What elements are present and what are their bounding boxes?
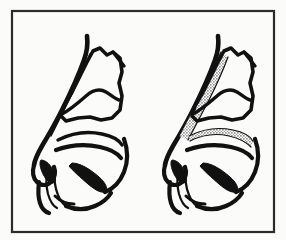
nasal-anatomy-illustration (0, 0, 286, 240)
page-background (0, 0, 286, 240)
figure-root: Sagittal nasal anatomy, two-panel compar… (0, 0, 286, 240)
